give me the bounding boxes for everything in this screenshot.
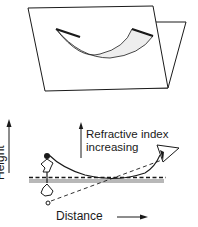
refractive-index-label: Refractive index	[86, 128, 168, 140]
inverted-image-icon	[41, 184, 53, 196]
distance-label: Distance	[56, 210, 103, 222]
increasing-label: increasing	[86, 141, 138, 153]
refractive-arrowhead-icon	[79, 122, 83, 129]
palm-tree-icon	[41, 159, 53, 172]
front-plane	[28, 6, 168, 91]
distance-arrowhead-icon	[140, 215, 148, 220]
object-top	[44, 153, 50, 159]
image-point	[46, 201, 50, 205]
height-label: Height	[0, 145, 6, 180]
height-arrowhead-icon	[7, 119, 12, 127]
eye-icon	[157, 145, 179, 162]
ground-surface	[29, 179, 164, 183]
diagram-canvas	[0, 0, 198, 227]
